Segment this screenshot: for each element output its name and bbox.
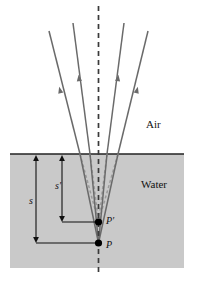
point-dot-P-prime	[95, 218, 102, 225]
ray-3-air	[107, 23, 124, 154]
ray-4-air	[118, 31, 148, 154]
image-point-label-p-prime: P′	[106, 216, 114, 226]
arrow-ray-3	[115, 74, 121, 81]
dimension-label-s: s	[29, 196, 33, 206]
ray-1-air	[49, 31, 80, 154]
arrow-ray-1	[57, 86, 64, 94]
air-region-label: Air	[146, 119, 161, 130]
optics-refraction-figure: Air Water P′ P s s′	[0, 0, 197, 281]
point-dot-P	[95, 239, 102, 246]
object-point-label-p: P	[106, 240, 112, 250]
dimension-label-s-prime: s′	[55, 181, 61, 191]
figure-canvas	[0, 0, 197, 281]
arrow-ray-2	[76, 74, 82, 81]
water-region-label: Water	[141, 179, 167, 190]
